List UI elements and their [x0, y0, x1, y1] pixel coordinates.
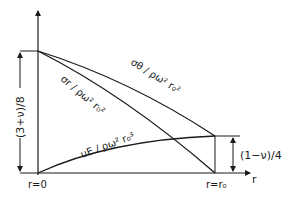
sigma-theta-label: σθ / ρω² r₀² — [129, 56, 183, 95]
left-dimension-label: (3+ν)/8 — [14, 96, 27, 138]
disc-stress-diagram: r (3+ν)/8 (1−ν)/4 σθ / ρω² r₀² σr / ρω² … — [0, 0, 302, 199]
sigma-theta-curve — [38, 51, 215, 136]
outer-radius-label: r=r₀ — [206, 179, 227, 190]
origin-label: r=0 — [28, 179, 47, 190]
sigma-r-label: σr / ρω² r₀² — [59, 73, 108, 116]
sigma-r-curve — [38, 51, 215, 173]
r-axis-label: r — [252, 173, 257, 186]
right-dimension-label: (1−ν)/4 — [240, 149, 282, 162]
